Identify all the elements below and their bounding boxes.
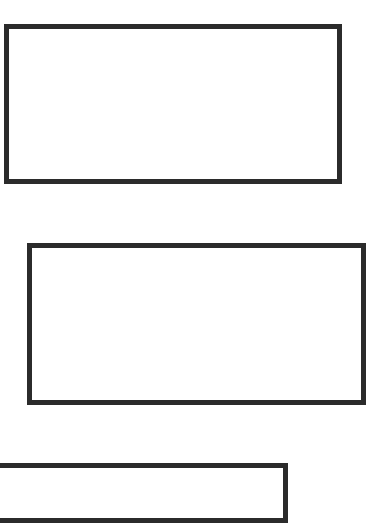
rectangle-box-2: [27, 243, 366, 405]
rectangle-box-1: [4, 24, 342, 184]
rectangle-box-3: [0, 463, 288, 523]
